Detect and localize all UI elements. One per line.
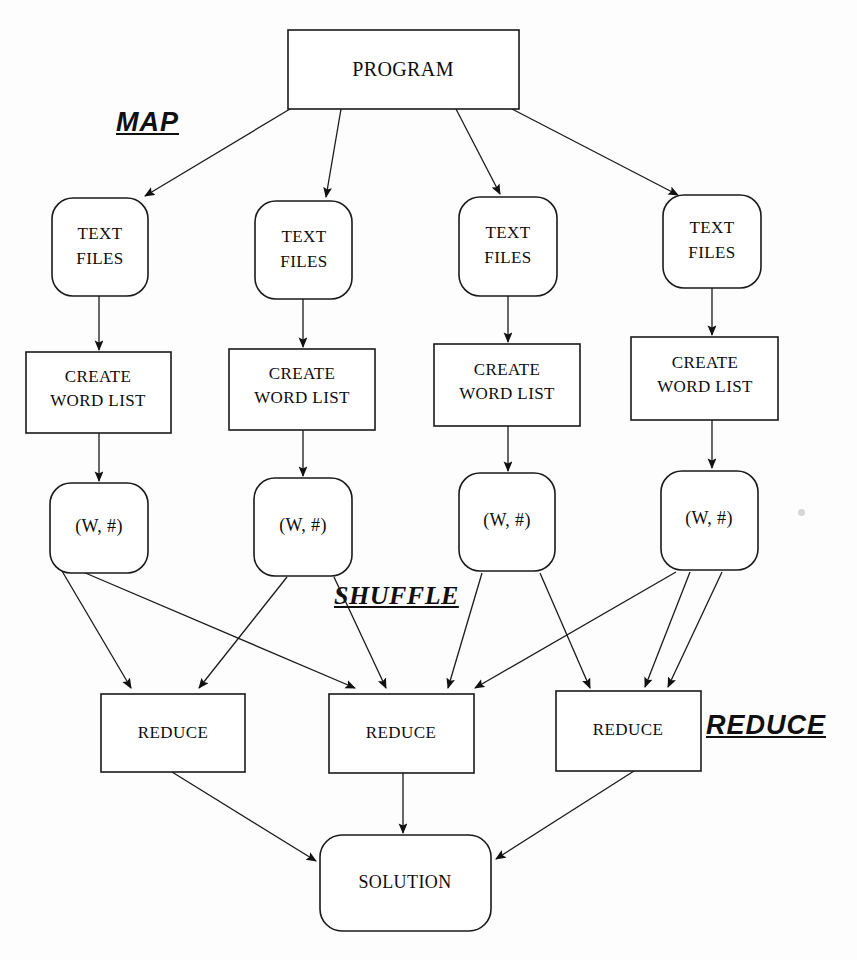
node-pair-1[interactable]: (W, #) [50,483,148,573]
text-files-label-4-line1: TEXT [689,218,734,237]
create-word-list-label-3-line1: CREATE [474,360,541,379]
create-word-list-label-2-line1: CREATE [269,364,336,383]
text-files-label-1-line1: TEXT [77,224,122,243]
text-files-box-2[interactable] [255,201,352,299]
stage-label-reduce: REDUCE [706,712,826,739]
node-reduce-2[interactable]: REDUCE [329,694,474,773]
text-files-box-3[interactable] [459,197,557,296]
node-program[interactable]: PROGRAM [288,30,519,109]
program-label: PROGRAM [352,58,454,80]
solution-label: SOLUTION [358,872,451,892]
pair-label-1: (W, #) [75,516,123,537]
node-pair-2[interactable]: (W, #) [254,478,352,576]
edges-wordlist-to-pairs [99,420,712,481]
create-word-list-label-4-line1: CREATE [672,353,739,372]
create-word-list-label-3-line2: WORD LIST [459,384,555,403]
text-files-box-1[interactable] [52,198,148,296]
edge-shuffle-p3-to-reduce3 [540,573,590,688]
edge-program-to-textfiles-2 [326,109,341,197]
node-text-files-3[interactable]: TEXT FILES [459,197,557,296]
pair-label-3: (W, #) [483,510,531,531]
reduce-label-2: REDUCE [366,723,436,742]
edge-reduce1-to-solution [172,772,316,861]
create-word-list-label-4-line2: WORD LIST [657,377,753,396]
reduce-label-1: REDUCE [138,723,208,742]
text-files-box-4[interactable] [663,195,761,288]
edge-program-to-textfiles-4 [512,109,678,195]
edge-shuffle-p4-to-reduce3b [668,572,722,687]
node-create-word-list-1[interactable]: CREATE WORD LIST [26,352,171,433]
edges-map-fanout [145,109,678,197]
edge-shuffle-p4-to-reduce3a [645,572,690,687]
edge-program-to-textfiles-3 [456,109,500,194]
scan-artifact-speck [798,509,805,516]
create-word-list-label-2-line2: WORD LIST [254,388,350,407]
text-files-label-1-line2: FILES [76,249,123,268]
edge-shuffle-p4-to-reduce2 [475,572,676,688]
pair-label-2: (W, #) [279,515,327,536]
text-files-label-4-line2: FILES [688,243,735,262]
stage-label-shuffle: SHUFFLE [334,583,459,609]
edge-shuffle-p1-to-reduce2 [83,572,355,688]
edges-textfiles-to-wordlist [99,288,712,350]
reduce-label-3: REDUCE [593,720,663,739]
node-text-files-1[interactable]: TEXT FILES [52,198,148,296]
diagram-canvas: PROGRAM TEXT FILES TEXT FILES TEXT FILES… [0,0,857,960]
create-word-list-label-1-line2: WORD LIST [50,391,146,410]
node-create-word-list-3[interactable]: CREATE WORD LIST [434,344,580,426]
node-text-files-2[interactable]: TEXT FILES [255,201,352,299]
node-create-word-list-4[interactable]: CREATE WORD LIST [631,337,778,420]
edge-reduce3-to-solution [496,771,634,859]
text-files-label-3-line2: FILES [484,248,531,267]
node-reduce-1[interactable]: REDUCE [101,694,245,772]
node-create-word-list-2[interactable]: CREATE WORD LIST [229,349,375,430]
create-word-list-label-1-line1: CREATE [65,367,132,386]
node-pair-3[interactable]: (W, #) [459,473,555,571]
node-text-files-4[interactable]: TEXT FILES [663,195,761,288]
node-pair-4[interactable]: (W, #) [661,471,758,570]
node-reduce-3[interactable]: REDUCE [556,691,701,771]
flowchart-svg: PROGRAM TEXT FILES TEXT FILES TEXT FILES… [0,0,857,960]
edge-shuffle-p2-to-reduce1 [199,577,287,688]
text-files-label-3-line1: TEXT [485,223,530,242]
text-files-label-2-line1: TEXT [281,227,326,246]
stage-label-map: MAP [116,109,179,136]
text-files-label-2-line2: FILES [280,252,327,271]
pair-label-4: (W, #) [685,508,733,529]
node-solution[interactable]: SOLUTION [320,835,491,931]
